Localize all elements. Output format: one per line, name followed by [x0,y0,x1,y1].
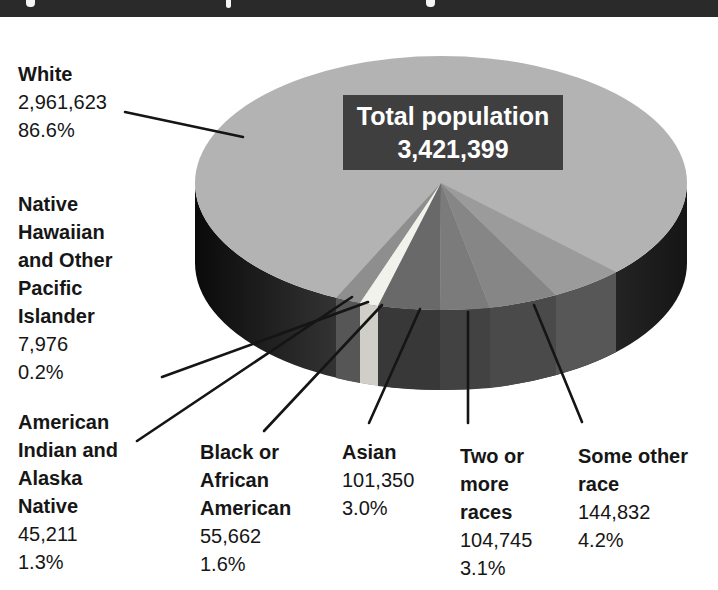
figure-population-by-race: Total population 3,421,399 White 2,961,6… [0,0,718,590]
callout-two-or-more: Two or more races 104,745 3.1% [460,442,532,582]
callout-label: Asian [342,438,414,466]
total-population-label: Total population [343,100,563,132]
callout-label: African [200,466,291,494]
callout-label: American [200,494,291,522]
callout-percent: 86.6% [18,116,107,144]
callout-percent: 3.1% [460,554,532,582]
total-population-value: 3,421,399 [343,133,563,165]
pie-side-asian [440,308,490,390]
callout-label: Hawaiian [18,218,112,246]
callout-some-other: Some other race 144,832 4.2% [578,442,688,554]
pie-side-native-hawaiian [360,303,378,386]
pie-side-black [378,306,440,390]
callout-value: 104,745 [460,526,532,554]
callout-percent: 0.2% [18,358,112,386]
callout-value: 101,350 [342,466,414,494]
callout-asian: Asian 101,350 3.0% [342,438,414,522]
callout-label: White [18,60,107,88]
callout-label: Alaska [18,464,118,492]
callout-percent: 1.3% [18,548,118,576]
callout-label: Two or [460,442,532,470]
callout-label: Indian and [18,436,118,464]
callout-label: more [460,470,532,498]
callout-value: 2,961,623 [18,88,107,116]
callout-label: Pacific [18,274,112,302]
callout-percent: 1.6% [200,550,291,578]
callout-label: race [578,470,688,498]
callout-label: races [460,498,532,526]
callout-label: Native [18,492,118,520]
callout-percent: 4.2% [578,526,688,554]
callout-label: Islander [18,302,112,330]
callout-black: Black or African American 55,662 1.6% [200,438,291,578]
callout-percent: 3.0% [342,494,414,522]
callout-label: American [18,408,118,436]
callout-value: 55,662 [200,522,291,550]
callout-label: Some other [578,442,688,470]
callout-white: White 2,961,623 86.6% [18,60,107,144]
callout-label: and Other [18,246,112,274]
callout-american-indian: American Indian and Alaska Native 45,211… [18,408,118,576]
callout-native-hawaiian: Native Hawaiian and Other Pacific Island… [18,190,112,386]
pie-side-two-or-more [490,295,556,388]
total-population-box: Total population 3,421,399 [343,95,563,170]
callout-value: 144,832 [578,498,688,526]
callout-value: 45,211 [18,520,118,548]
callout-label: Native [18,190,112,218]
callout-value: 7,976 [18,330,112,358]
callout-label: Black or [200,438,291,466]
